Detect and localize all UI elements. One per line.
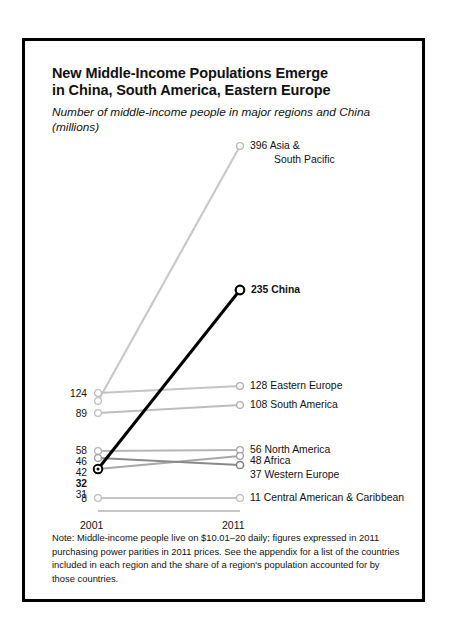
x-tick-2011: 2011 bbox=[222, 519, 245, 531]
right-label-eastern-europe: 128 Eastern Europe bbox=[250, 380, 342, 392]
marker-western-europe-2011 bbox=[236, 461, 243, 468]
marker-caribbean-2011 bbox=[237, 495, 244, 502]
line-eastern-europe bbox=[98, 386, 240, 393]
right-label-south-america: 108 South America bbox=[250, 399, 338, 411]
series-lines bbox=[98, 146, 240, 498]
line-asia-south-pacific bbox=[98, 146, 240, 401]
right-label-western-europe: 37 Western Europe bbox=[250, 469, 339, 481]
marker-caribbean-2001 bbox=[95, 495, 102, 502]
y-label-42: 42 bbox=[33, 467, 87, 478]
marker-western-europe-2001 bbox=[95, 455, 102, 462]
line-china bbox=[98, 290, 240, 469]
marker-eastern-europe-2001 bbox=[95, 390, 102, 397]
y-label-89: 89 bbox=[33, 408, 87, 419]
y-label-124: 124 bbox=[33, 388, 87, 399]
right-label-asia-south-pacific-line1: 396 Asia & bbox=[250, 140, 300, 152]
y-label-58: 58 bbox=[33, 445, 87, 456]
right-label-africa: 48 Africa bbox=[250, 455, 290, 467]
y-label-32: 32 bbox=[33, 478, 87, 489]
line-north-america bbox=[98, 450, 240, 451]
marker-china-2011 bbox=[236, 286, 245, 295]
y-label-46: 46 bbox=[33, 456, 87, 467]
right-label-central-american-caribbean: 11 Central American & Caribbean bbox=[250, 492, 404, 504]
line-western-europe bbox=[98, 458, 240, 465]
marker-eastern-europe-2011 bbox=[237, 383, 244, 390]
marker-china-2001-dot bbox=[97, 468, 100, 471]
chart-plot-area: 124 89 58 46 42 32 31 8 2001 2011 396 As… bbox=[25, 41, 428, 605]
right-label-china: 235 China bbox=[251, 284, 300, 296]
marker-south-america-2011 bbox=[237, 402, 244, 409]
y-label-8: 8 bbox=[33, 493, 87, 504]
marker-asia-2011 bbox=[237, 143, 244, 150]
marker-north-america-2001 bbox=[95, 448, 102, 455]
line-south-america bbox=[98, 405, 240, 413]
x-tick-2001: 2001 bbox=[80, 519, 103, 531]
marker-africa-2011 bbox=[237, 453, 244, 460]
right-label-asia-south-pacific-line2: South Pacific bbox=[274, 154, 335, 166]
chart-footnote: Note: Middle-income people live on $10.0… bbox=[52, 531, 404, 585]
chart-card: New Middle-Income Populations Emerge in … bbox=[22, 38, 425, 602]
marker-south-america-2001 bbox=[95, 410, 102, 417]
marker-asia-2001 bbox=[95, 398, 102, 405]
